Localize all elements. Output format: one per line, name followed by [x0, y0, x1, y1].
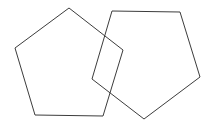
figure-canvas [0, 0, 211, 123]
pentagons-diagram [0, 0, 211, 123]
